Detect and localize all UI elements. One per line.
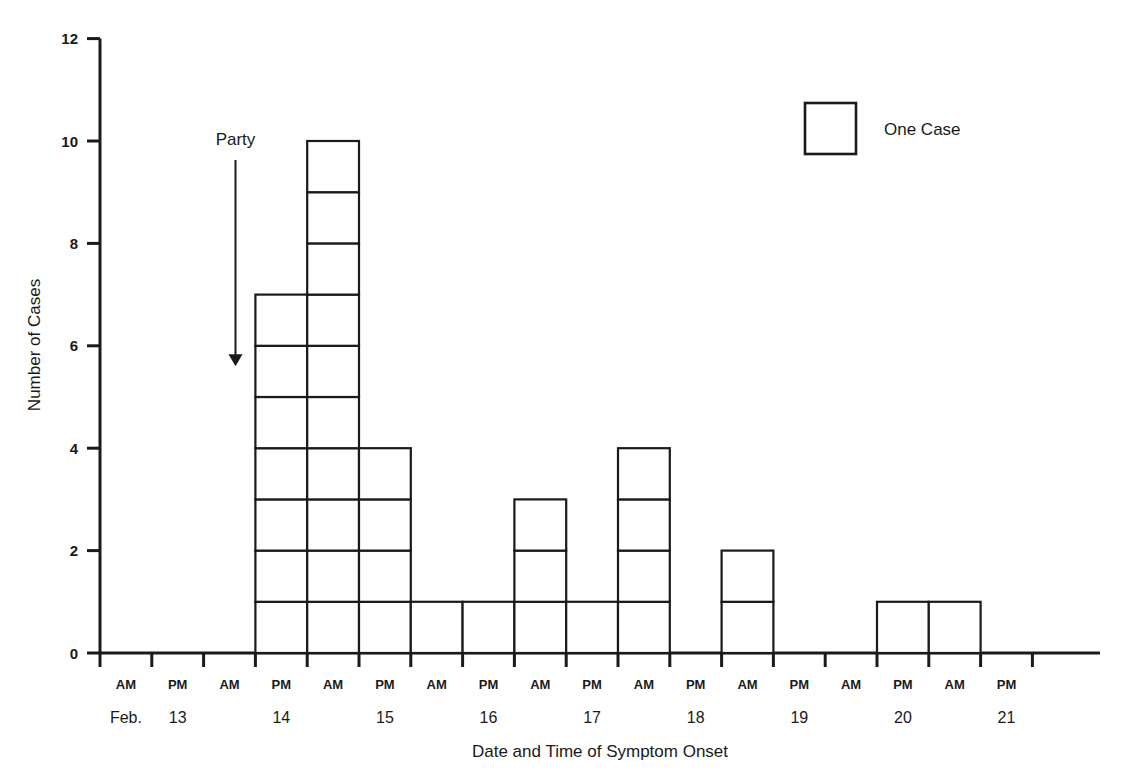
x-day-label: 19 (790, 709, 808, 726)
case-cell (255, 295, 307, 346)
x-day-label: 20 (894, 709, 912, 726)
case-cell (411, 602, 463, 653)
y-axis-title: Number of Cases (25, 279, 44, 411)
x-tick-label-ampm: PM (272, 677, 292, 692)
x-tick-label-ampm: PM (375, 677, 395, 692)
x-day-label: 14 (272, 709, 290, 726)
x-day-label: 16 (480, 709, 498, 726)
y-tick-label: 4 (70, 440, 79, 457)
case-cell (359, 448, 411, 499)
epidemic-curve-chart: Number of Cases Date and Time of Symptom… (0, 0, 1133, 780)
legend: One Case (805, 103, 961, 154)
case-cell (307, 192, 359, 243)
case-cell (722, 602, 774, 653)
x-tick-label-ampm: AM (945, 677, 965, 692)
x-day-label: 21 (998, 709, 1016, 726)
x-axis (100, 653, 1100, 667)
annotations-group: Party (216, 130, 256, 366)
y-tick-label: 6 (70, 337, 78, 354)
x-tick-label-ampm: PM (479, 677, 499, 692)
day-labels: Feb.131415161718192021 (110, 709, 1016, 726)
case-cell (877, 602, 929, 653)
x-tick-label-ampm: PM (686, 677, 706, 692)
case-cell (307, 346, 359, 397)
bar-cells-group (255, 141, 980, 653)
x-day-label: Feb. (110, 709, 142, 726)
case-cell (255, 448, 307, 499)
y-axis: 024681012 (61, 30, 100, 661)
legend-entry-label: One Case (884, 120, 961, 139)
x-tick-label-ampm: PM (168, 677, 188, 692)
case-cell (255, 499, 307, 550)
x-tick-label-ampm: PM (790, 677, 810, 692)
case-cell (255, 551, 307, 602)
case-cell (463, 602, 515, 653)
case-cell (514, 499, 566, 550)
y-tick-label: 8 (70, 235, 78, 252)
y-axis-title-text: Number of Cases (25, 279, 44, 411)
x-tick-label-ampm: PM (582, 677, 602, 692)
case-cell (618, 448, 670, 499)
x-tick-label-ampm: AM (323, 677, 343, 692)
case-cell (618, 551, 670, 602)
x-tick-label-ampm: AM (219, 677, 239, 692)
case-cell (255, 602, 307, 653)
case-cell (722, 551, 774, 602)
case-cell (514, 602, 566, 653)
party-annotation-label: Party (216, 130, 256, 149)
y-tick-label: 0 (70, 645, 78, 662)
case-cell (359, 551, 411, 602)
y-tick-label: 2 (70, 542, 78, 559)
x-day-label: 13 (169, 709, 187, 726)
case-cell (307, 141, 359, 192)
case-cell (307, 397, 359, 448)
x-tick-label-ampm: AM (530, 677, 550, 692)
x-day-label: 18 (687, 709, 705, 726)
case-cell (307, 448, 359, 499)
case-cell (307, 499, 359, 550)
case-cell (307, 602, 359, 653)
case-cell (514, 551, 566, 602)
legend-swatch-square-icon (805, 103, 856, 154)
x-tick-label-ampm: PM (997, 677, 1017, 692)
case-cell (618, 499, 670, 550)
y-tick-label: 12 (61, 30, 78, 47)
x-tick-labels: AMPMAMPMAMPMAMPMAMPMAMPMAMPMAMPMAMPM (116, 677, 1016, 692)
case-cell (307, 551, 359, 602)
x-day-label: 15 (376, 709, 394, 726)
x-axis-title: Date and Time of Symptom Onset (472, 742, 728, 761)
y-tick-label: 10 (61, 133, 78, 150)
x-day-label: 17 (583, 709, 601, 726)
case-cell (929, 602, 981, 653)
case-cell (255, 346, 307, 397)
x-tick-label-ampm: PM (893, 677, 913, 692)
case-cell (359, 499, 411, 550)
case-cell (618, 602, 670, 653)
chart-canvas: Number of Cases Date and Time of Symptom… (0, 0, 1133, 780)
x-tick-label-ampm: AM (737, 677, 757, 692)
case-cell (307, 243, 359, 294)
party-arrow-head-icon (229, 354, 243, 366)
case-cell (307, 295, 359, 346)
case-cell (359, 602, 411, 653)
x-tick-label-ampm: AM (634, 677, 654, 692)
x-tick-label-ampm: AM (841, 677, 861, 692)
x-tick-label-ampm: AM (427, 677, 447, 692)
case-cell (566, 602, 618, 653)
x-axis-title-text: Date and Time of Symptom Onset (472, 742, 728, 761)
case-cell (255, 397, 307, 448)
x-tick-label-ampm: AM (116, 677, 136, 692)
